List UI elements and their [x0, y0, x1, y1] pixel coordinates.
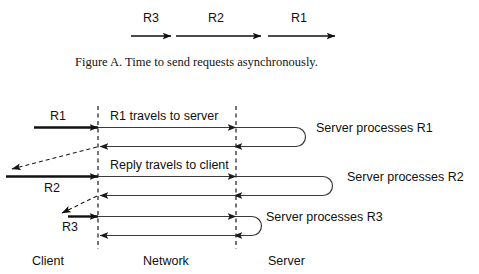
r1-server-processing-loop — [236, 128, 306, 147]
zone-label-server: Server — [268, 254, 305, 268]
server-label-processes-r2: Server processes R2 — [347, 170, 464, 184]
network-label-reply-travels: Reply travels to client — [110, 158, 229, 172]
r3-server-processing-loop — [236, 217, 262, 236]
diagram-label-r1: R1 — [50, 109, 66, 123]
diagram-canvas: R3 R2 R1 Figure A. Time to send requests… — [0, 0, 479, 274]
main-diagram-group: R1 R1 travels to server Server processes… — [6, 106, 464, 268]
top-label-r3: R3 — [143, 11, 159, 25]
diagram-label-r2: R2 — [44, 181, 60, 195]
top-timeline-group: R3 R2 R1 — [131, 11, 335, 36]
figure-caption: Figure A. Time to send requests asynchro… — [75, 55, 318, 69]
r1-reply-to-client-dashed-arrow — [12, 147, 97, 169]
server-label-processes-r1: Server processes R1 — [316, 121, 433, 135]
diagram-label-r3: R3 — [62, 220, 78, 234]
r2-reply-to-client-dashed-arrow — [62, 196, 97, 213]
zone-label-network: Network — [143, 254, 190, 268]
r2-server-processing-loop — [236, 177, 333, 196]
zone-label-client: Client — [32, 254, 64, 268]
top-label-r1: R1 — [291, 11, 307, 25]
server-label-processes-r3: Server processes R3 — [266, 210, 383, 224]
top-label-r2: R2 — [208, 11, 224, 25]
network-label-r1-travels: R1 travels to server — [110, 109, 218, 123]
figure-container: R3 R2 R1 Figure A. Time to send requests… — [0, 0, 479, 274]
